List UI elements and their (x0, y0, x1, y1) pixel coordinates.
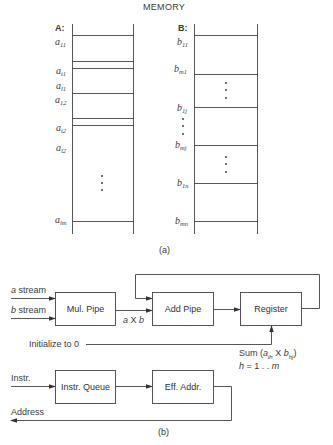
ellipsis-dot (101, 189, 103, 191)
memory-title: MEMORY (143, 2, 185, 12)
array-b-header: B: (178, 23, 188, 33)
product-label: a X b (123, 315, 144, 325)
initialize-arrow (86, 326, 272, 345)
label-b11: b11 (177, 36, 188, 48)
initialize-label: Initialize to 0 (29, 339, 79, 349)
mul-pipe-label: Mul. Pipe (55, 304, 116, 314)
label-a12: a12 (55, 94, 67, 106)
instr-label: Instr. (11, 373, 31, 383)
memory-array-b-column (195, 24, 258, 234)
caption-a: (a) (159, 245, 170, 255)
ellipsis-dot (101, 182, 103, 184)
ellipsis-dot (225, 82, 227, 84)
ellipsis-dot (182, 133, 184, 135)
eff-addr-label: Eff. Addr. (152, 382, 214, 392)
range-label: h = 1 . . m (239, 361, 279, 371)
a-stream-label: a stream (11, 285, 46, 295)
ellipsis-dot (225, 89, 227, 91)
label-b1j: b1j (177, 102, 187, 114)
add-pipe-label: Add Pipe (152, 304, 214, 314)
register-label: Register (240, 304, 302, 314)
ellipsis-dot (225, 163, 227, 165)
sum-label: Sum (aih X bhj) (239, 348, 296, 362)
ellipsis-dot (225, 97, 227, 99)
instr-queue-label: Instr. Queue (55, 382, 116, 392)
label-alm: alm (55, 214, 67, 226)
diagram-lines (0, 0, 333, 445)
array-a-header: A: (55, 23, 65, 33)
caption-b: (b) (158, 427, 169, 437)
memory-array-a-column (73, 24, 134, 234)
label-b1n: b1n (177, 177, 189, 189)
address-label: Address (11, 407, 44, 417)
ellipsis-dot (182, 125, 184, 127)
label-bm1: bm1 (174, 63, 187, 75)
label-ai1: ai1 (56, 65, 66, 77)
ellipsis-dot (225, 156, 227, 158)
label-bmj: bmj (175, 139, 187, 151)
label-a11: a11 (55, 36, 66, 48)
ellipsis-dot (101, 175, 103, 177)
label-ai2: ai2 (56, 122, 66, 134)
ellipsis-dot (225, 171, 227, 173)
label-bmn: bmn (175, 215, 188, 227)
label-al1: al1 (56, 80, 66, 92)
label-al2: al2 (56, 142, 66, 154)
ellipsis-dot (182, 118, 184, 120)
b-stream-label: b stream (11, 305, 46, 315)
